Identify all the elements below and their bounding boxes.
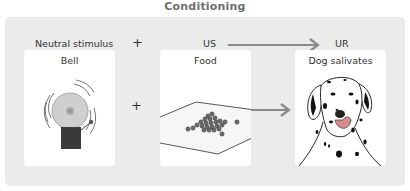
diagram-title: Conditioning bbox=[0, 0, 410, 13]
plus-sign-between: + bbox=[131, 98, 142, 113]
dog-icon bbox=[295, 50, 386, 166]
bell-icon bbox=[24, 50, 115, 166]
dog-card: Dog salivates bbox=[295, 50, 386, 166]
food-bowl-icon bbox=[160, 50, 251, 166]
neutral-stimulus-label: Neutral stimulus bbox=[35, 38, 113, 49]
us-label: US bbox=[203, 38, 216, 49]
ur-label: UR bbox=[335, 38, 349, 49]
arrow-right-icon bbox=[251, 103, 293, 117]
bell-card: Bell bbox=[24, 50, 115, 166]
plus-sign-header: + bbox=[132, 35, 143, 50]
food-card: Food bbox=[160, 50, 251, 166]
